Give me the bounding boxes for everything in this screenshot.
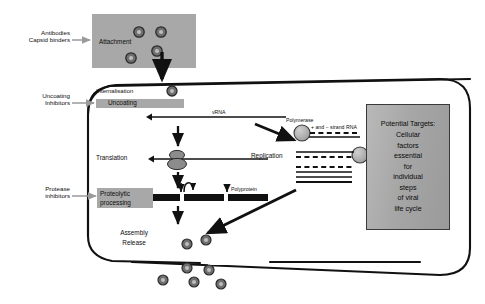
- inhibitor-attachment-line2: Capsid binders: [4, 36, 70, 43]
- targets-line-6: steps: [381, 183, 436, 194]
- inhibitor-protease-line1: Protease: [4, 185, 70, 192]
- inhibitor-label-protease: Protease inhibitors: [4, 185, 70, 200]
- molecule-label-strand-rna: + and − strand RNA: [311, 124, 357, 130]
- targets-line-0: Potential Targets:: [381, 119, 436, 130]
- inhibitor-attachment-line1: Antibodies: [4, 29, 70, 36]
- stage-label-attachment: Attachment: [99, 38, 131, 46]
- stage-label-translation: Translation: [96, 154, 127, 162]
- polymerase-ball-top: [294, 125, 310, 141]
- targets-line-3: essential: [381, 151, 436, 162]
- inhibitor-label-uncoating: Uncoating Inhibitors: [4, 92, 70, 107]
- stage-label-internalisation: Internalisation: [96, 87, 133, 95]
- inhibitor-uncoating-line1: Uncoating: [4, 92, 70, 99]
- targets-line-4: for: [381, 162, 436, 173]
- proteolytic-line1: Proteolytic: [100, 189, 131, 198]
- potential-targets-text: Potential Targets: Cellular factors esse…: [378, 119, 439, 214]
- inhibitor-label-attachment: Antibodies Capsid binders: [4, 29, 70, 44]
- arrow-vrna-to-replication: [255, 124, 294, 140]
- inhibitor-protease-line2: inhibitors: [4, 192, 70, 199]
- targets-line-8: life cycle: [381, 204, 436, 215]
- stage-label-assembly-release: Assembly Release: [111, 228, 157, 247]
- diagram-canvas: Antibodies Capsid binders Uncoating Inhi…: [0, 0, 485, 304]
- release-label: Release: [111, 238, 157, 248]
- inhibitor-uncoating-line2: Inhibitors: [4, 99, 70, 106]
- molecule-label-polyprotein: Polyprotein: [231, 186, 257, 192]
- stage-label-uncoating: Uncoating: [108, 99, 137, 107]
- replication-complex: [294, 125, 368, 182]
- molecule-label-polymerase: Polymerase: [286, 117, 313, 123]
- potential-targets-panel: Potential Targets: Cellular factors esse…: [366, 104, 450, 230]
- targets-line-1: Cellular: [381, 130, 436, 141]
- assembly-label: Assembly: [111, 228, 157, 238]
- proteolytic-line2: processing: [100, 198, 131, 207]
- targets-line-5: individual: [381, 172, 436, 183]
- molecule-label-vrna: vRNA: [212, 109, 226, 115]
- translation-strand: [148, 150, 268, 169]
- stage-label-proteolytic: Proteolytic processing: [100, 189, 131, 207]
- targets-line-2: factors: [381, 141, 436, 152]
- virion-internalised: [167, 86, 177, 96]
- stage-label-replication: Replication: [251, 152, 283, 160]
- targets-line-7: of viral: [381, 193, 436, 204]
